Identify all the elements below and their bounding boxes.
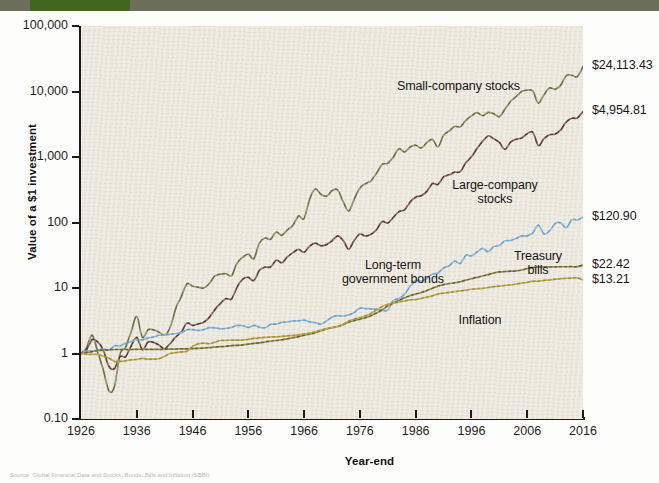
x-tick-mark bbox=[303, 410, 305, 418]
x-tick-mark bbox=[415, 410, 417, 418]
y-tick-label: 10,000 bbox=[0, 84, 68, 98]
series-end-value: $120.90 bbox=[592, 209, 637, 223]
x-tick-label: 2016 bbox=[553, 424, 613, 438]
y-tick-mark bbox=[72, 222, 79, 224]
x-tick-mark bbox=[582, 410, 584, 418]
x-tick-mark bbox=[470, 410, 472, 418]
y-tick-mark bbox=[72, 25, 79, 27]
series-end-value: $22.42 bbox=[592, 257, 630, 271]
chart-figure: Value of a $1 investment Year-end 100,00… bbox=[0, 0, 659, 483]
y-tick-label: 100 bbox=[0, 215, 68, 229]
y-tick-mark bbox=[72, 287, 79, 289]
x-tick-mark bbox=[526, 410, 528, 418]
header-tab bbox=[30, 0, 130, 11]
series-end-value: $4,954.81 bbox=[592, 103, 647, 117]
x-axis-label: Year-end bbox=[0, 455, 659, 467]
x-tick-label: 1936 bbox=[107, 424, 167, 438]
series-end-value: $13.21 bbox=[592, 272, 630, 286]
x-tick-label: 1986 bbox=[386, 424, 446, 438]
x-tick-label: 1966 bbox=[274, 424, 334, 438]
x-tick-mark bbox=[247, 410, 249, 418]
series-annotation-lt-gov-bonds: Long-term government bonds bbox=[328, 258, 458, 287]
header-band bbox=[0, 0, 659, 11]
x-tick-mark bbox=[192, 410, 194, 418]
y-tick-mark bbox=[72, 353, 79, 355]
x-tick-label: 2006 bbox=[497, 424, 557, 438]
series-end-value: $24,113.43 bbox=[592, 58, 653, 72]
x-tick-label: 1976 bbox=[330, 424, 390, 438]
series-annotation-inflation: Inflation bbox=[440, 313, 520, 327]
y-tick-label: 100,000 bbox=[0, 18, 68, 32]
x-tick-mark bbox=[359, 410, 361, 418]
x-tick-label: 1926 bbox=[51, 424, 111, 438]
x-tick-label: 1946 bbox=[163, 424, 223, 438]
y-tick-label: 1 bbox=[0, 346, 68, 360]
y-tick-mark bbox=[72, 418, 79, 420]
y-tick-mark bbox=[72, 91, 79, 93]
y-tick-label: 1,000 bbox=[0, 149, 68, 163]
y-axis-label: Value of a $1 investment bbox=[26, 122, 38, 262]
x-tick-label: 1956 bbox=[218, 424, 278, 438]
y-tick-mark bbox=[72, 156, 79, 158]
series-annotation-large-company: Large-company stocks bbox=[440, 178, 550, 207]
x-tick-label: 1996 bbox=[441, 424, 501, 438]
y-tick-label: 10 bbox=[0, 280, 68, 294]
series-annotation-treasury-bills: Treasury bills bbox=[500, 249, 576, 278]
source-note: Source: Global Financial Data and Stocks… bbox=[10, 472, 650, 478]
x-tick-mark bbox=[136, 410, 138, 418]
series-annotation-small-company: Small-company stocks bbox=[390, 79, 520, 93]
y-tick-label: 0.10 bbox=[0, 411, 68, 425]
